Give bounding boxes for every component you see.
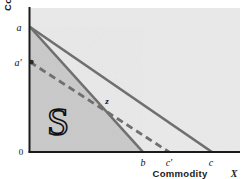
x-axis-title: Commodity [153, 168, 208, 179]
point-label-a: a [17, 22, 22, 33]
x-axis-title-variable: X [230, 168, 238, 179]
origin-label: 0 [19, 147, 24, 157]
point-label-b: b [141, 157, 146, 168]
commodity-budget-figure: a a′ 0 b c′ c z S Commodity X Commodity … [0, 0, 251, 179]
point-label-c-prime: c′ [166, 157, 173, 168]
point-label-c: c [209, 157, 214, 168]
figure-canvas: a a′ 0 b c′ c z S Commodity X Commodity … [0, 0, 251, 179]
region-label-s: S [47, 99, 69, 144]
point-label-z: z [104, 96, 109, 106]
point-label-a-prime: a′ [14, 57, 22, 68]
y-axis-title: Commodity [2, 0, 13, 11]
